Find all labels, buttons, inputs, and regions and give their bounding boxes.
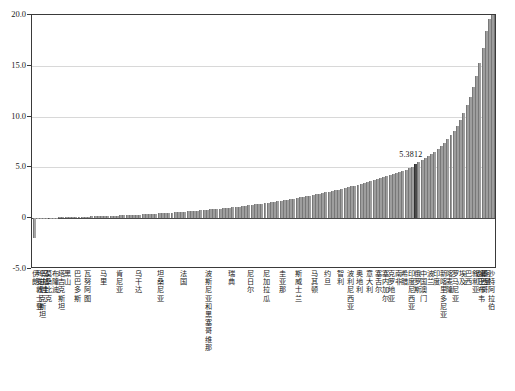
y-axis-tick-label: 0 — [0, 213, 26, 222]
x-axis-tick-label: 马其顿 — [310, 270, 319, 382]
bar — [33, 218, 36, 238]
x-axis-tick-label: 意大利 — [365, 270, 374, 382]
x-axis-tick-label: 波利尼西亚 — [346, 270, 355, 382]
x-axis-tick-label: 智利 — [336, 270, 345, 382]
x-axis-tick-label: 坦桑尼亚 — [156, 270, 165, 382]
x-axis-tick-label: 法国 — [179, 270, 188, 382]
bar-series — [32, 15, 495, 267]
plot-area: 5.3812 — [31, 14, 496, 268]
y-axis-tick-label: -5.0 — [0, 264, 26, 273]
x-axis-tick-label: 尼日尔 — [246, 270, 255, 382]
x-axis-tick-label: 马里 — [99, 270, 108, 382]
y-axis-tick-label: 10.0 — [0, 112, 26, 121]
x-axis-tick-label: 尼加拉瓜 — [262, 270, 271, 382]
x-axis-tick-label: 黑山 — [63, 270, 72, 382]
highlight-value-label: 5.3812 — [399, 151, 422, 159]
x-axis-tick-label: 奥地利 — [355, 270, 364, 382]
y-axis-tick-label: 5.0 — [0, 162, 26, 171]
y-axis-tick-label: 15.0 — [0, 61, 26, 70]
x-axis-tick-label: 乌干达 — [134, 270, 143, 382]
x-axis-tick-label: 斯威士兰 — [294, 270, 303, 382]
x-axis-tick-label: 波斯尼亚和黑塞哥维那 — [204, 270, 213, 382]
y-axis-tick-label: 20.0 — [0, 10, 26, 19]
x-axis-tick-label: 圭亚那 — [278, 270, 287, 382]
x-axis-tick-label: 瓦努阿图 — [83, 270, 92, 382]
x-axis-tick-label: 沙特阿拉伯 — [487, 270, 496, 382]
bar — [494, 15, 495, 218]
bar-chart: 20.015.010.05.00-5.0 5.3812 伊朗列支敦士登乌兹别克斯… — [0, 0, 515, 391]
x-axis-tick-label: 肯尼亚 — [115, 270, 124, 382]
y-axis-tick-mark — [27, 268, 31, 269]
x-axis-tick-label: 瑞典 — [227, 270, 236, 382]
x-axis-tick-label: 约旦 — [323, 270, 332, 382]
x-axis-labels: 伊朗列支敦士登乌兹别克斯坦乌拉圭莫桑比克布隆迪塔吉克斯坦黑山巴巴多斯瓦努阿图马里… — [31, 270, 496, 382]
x-axis-tick-label: 巴巴多斯 — [73, 270, 82, 382]
